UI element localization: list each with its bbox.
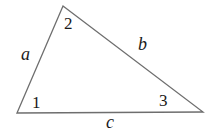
angle-label-2: 2 bbox=[64, 14, 73, 33]
side-label-b: b bbox=[138, 34, 147, 54]
side-label-c: c bbox=[106, 112, 114, 132]
angle-label-3: 3 bbox=[159, 91, 168, 110]
triangle-shape bbox=[17, 6, 203, 113]
triangle-diagram: 1 2 3 a b c bbox=[0, 0, 214, 133]
side-label-a: a bbox=[21, 44, 30, 64]
angle-label-1: 1 bbox=[32, 93, 41, 112]
